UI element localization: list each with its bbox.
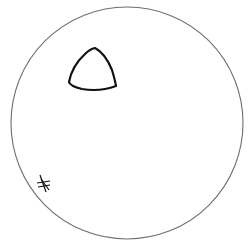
rounded-triangle-shape bbox=[69, 48, 116, 90]
outer-circle bbox=[11, 7, 243, 239]
sketch-canvas bbox=[0, 0, 249, 246]
asterisk-mark-icon bbox=[37, 175, 50, 192]
